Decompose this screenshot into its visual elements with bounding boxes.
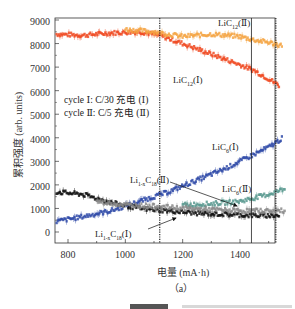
y-tick-0: 0 bbox=[45, 227, 50, 238]
y-tick-2000: 2000 bbox=[30, 181, 50, 192]
arrow-li1-xc18-cycle1 bbox=[148, 218, 176, 229]
y-tick-3000: 3000 bbox=[30, 157, 50, 168]
legend-entry-cycle-1: cycle Ⅰ: C/30 充电 (Ⅰ) bbox=[64, 94, 149, 106]
y-axis-title: 累积强度 (arb. units) bbox=[12, 92, 25, 178]
x-tick-800: 800 bbox=[61, 249, 76, 260]
x-tick-1000: 1000 bbox=[115, 249, 135, 260]
x-tick-labels: 800 1000 1200 1400 bbox=[61, 249, 251, 260]
label-li1-xc18-cycle1: Li1-xC18(Ⅰ) bbox=[95, 229, 131, 241]
y-tick-labels: 0 1000 2000 3000 4000 5000 6000 7000 800… bbox=[30, 16, 50, 238]
legend-entry-cycle-2: cycle Ⅱ: C/5 充电 (Ⅱ) bbox=[64, 107, 149, 119]
label-li1-xc18-cycle2: Li1-xC18(Ⅱ) bbox=[130, 175, 169, 187]
y-tick-9000: 9000 bbox=[30, 16, 50, 27]
chart-subtitle: （a） bbox=[169, 283, 193, 294]
label-lic6-cycle1: LiC6(Ⅰ) bbox=[212, 142, 239, 154]
legend: cycle Ⅰ: C/30 充电 (Ⅰ) cycle Ⅱ: C/5 充电 (Ⅱ) bbox=[64, 94, 149, 119]
label-lic12-cycle1: LiC12(Ⅰ) bbox=[173, 75, 203, 87]
y-tick-5000: 5000 bbox=[30, 110, 50, 121]
footer-faint-text bbox=[182, 305, 292, 308]
x-tick-1200: 1200 bbox=[173, 249, 193, 260]
y-tick-7000: 7000 bbox=[30, 63, 50, 74]
y-tick-1000: 1000 bbox=[30, 204, 50, 215]
label-lic6-cycle2: LiC6(Ⅱ) bbox=[222, 184, 251, 196]
y-tick-6000: 6000 bbox=[30, 87, 50, 98]
chart: 0 1000 2000 3000 4000 5000 6000 7000 800… bbox=[0, 0, 295, 309]
series-lic12- bbox=[124, 25, 283, 49]
footer-bar bbox=[130, 304, 168, 309]
y-tick-4000: 4000 bbox=[30, 134, 50, 145]
x-axis-title: 电量 (mA·h) bbox=[157, 266, 210, 279]
x-tick-1400: 1400 bbox=[230, 249, 250, 260]
y-tick-8000: 8000 bbox=[30, 40, 50, 51]
label-lic12-cycle2: LiC12(Ⅱ) bbox=[218, 18, 250, 30]
